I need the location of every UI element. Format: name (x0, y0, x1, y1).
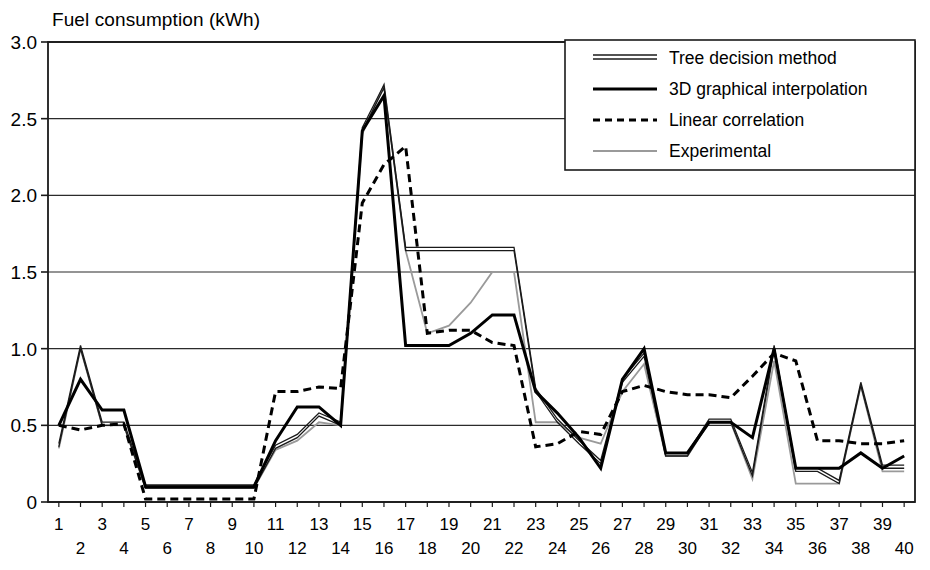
xtick-label: 37 (830, 515, 849, 534)
xtick-label: 13 (309, 515, 328, 534)
xtick-label: 8 (206, 539, 215, 558)
xtick-label: 17 (396, 515, 415, 534)
xtick-label: 27 (613, 515, 632, 534)
xtick-label: 14 (331, 539, 350, 558)
ytick-label: 0.5 (11, 415, 37, 436)
ytick-label: 0 (26, 492, 37, 513)
xtick-label: 36 (808, 539, 827, 558)
xtick-label: 40 (895, 539, 914, 558)
ytick-label: 3.0 (11, 32, 37, 53)
xtick-label: 26 (591, 539, 610, 558)
xtick-label: 23 (526, 515, 545, 534)
xtick-label: 3 (97, 515, 106, 534)
xtick-label: 35 (786, 515, 805, 534)
xtick-label: 29 (656, 515, 675, 534)
xtick-label: 16 (375, 539, 394, 558)
ytick-label: 2.5 (11, 109, 37, 130)
ytick-label: 2.0 (11, 185, 37, 206)
xtick-label: 39 (873, 515, 892, 534)
xtick-label: 25 (570, 515, 589, 534)
chart-legend: Tree decision method3D graphical interpo… (565, 40, 915, 170)
xtick-label: 34 (765, 539, 784, 558)
xtick-label: 1 (54, 515, 63, 534)
xtick-label: 2 (76, 539, 85, 558)
ytick-label: 1.0 (11, 339, 37, 360)
xtick-label: 5 (141, 515, 150, 534)
xtick-label: 28 (635, 539, 654, 558)
xtick-label: 22 (505, 539, 524, 558)
chart-plot-svg: 00.51.01.52.02.53.0123456789101112131415… (0, 0, 930, 570)
xtick-label: 12 (288, 539, 307, 558)
xtick-label: 32 (721, 539, 740, 558)
legend-label: Linear correlation (669, 110, 804, 130)
xtick-label: 6 (162, 539, 171, 558)
legend-label: Experimental (669, 141, 771, 161)
legend-label: 3D graphical interpolation (669, 79, 867, 99)
xtick-label: 20 (461, 539, 480, 558)
xtick-label: 33 (743, 515, 762, 534)
xtick-label: 31 (700, 515, 719, 534)
legend-label: Tree decision method (669, 48, 837, 68)
ytick-label: 1.5 (11, 262, 37, 283)
xtick-label: 4 (119, 539, 128, 558)
xtick-label: 38 (851, 539, 870, 558)
xtick-label: 7 (184, 515, 193, 534)
xtick-label: 15 (353, 515, 372, 534)
xtick-label: 19 (440, 515, 459, 534)
xtick-label: 21 (483, 515, 502, 534)
xtick-label: 9 (228, 515, 237, 534)
xtick-label: 11 (267, 515, 285, 534)
xtick-label: 24 (548, 539, 567, 558)
xtick-label: 10 (244, 539, 263, 558)
xtick-label: 30 (678, 539, 697, 558)
chart-container: Fuel consumption (kWh) 00.51.01.52.02.53… (0, 0, 930, 570)
xtick-label: 18 (418, 539, 437, 558)
